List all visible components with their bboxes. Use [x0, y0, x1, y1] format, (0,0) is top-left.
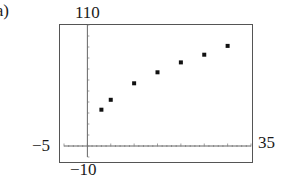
data-point [226, 44, 230, 48]
axes [64, 25, 251, 157]
data-point [202, 53, 206, 57]
data-point [109, 98, 113, 102]
plot-frame [60, 25, 253, 163]
data-point [99, 108, 103, 112]
data-point [132, 81, 136, 85]
data-point [179, 60, 183, 64]
data-points [99, 44, 229, 112]
data-point [156, 70, 160, 74]
scatter-plot [0, 0, 281, 177]
